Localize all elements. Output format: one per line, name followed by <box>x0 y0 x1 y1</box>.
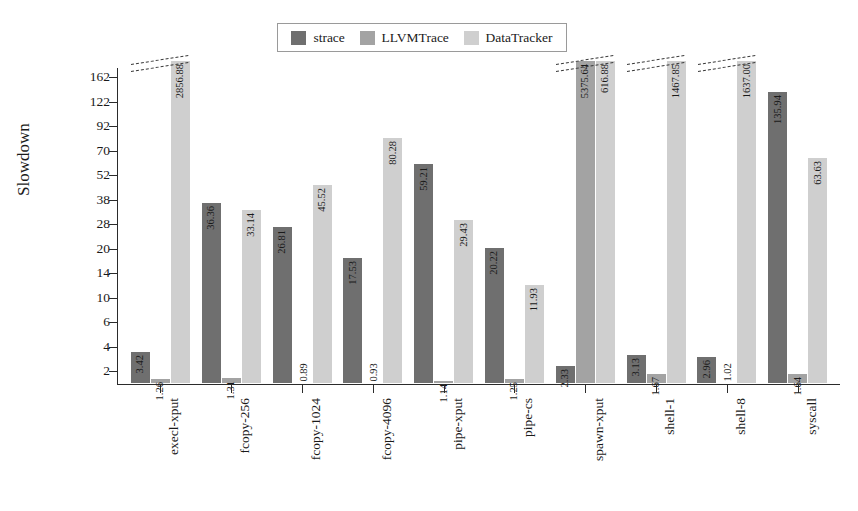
y-axis-tick <box>109 200 118 201</box>
bar-LLVMTrace-spawn-xput: 5375.64 <box>576 61 595 383</box>
bar-strace-shell-1: 3.13 <box>627 355 646 383</box>
x-axis-tick <box>656 384 657 393</box>
bar-LLVMTrace-pipe-xput: 1.14 <box>434 381 453 383</box>
bar-strace-syscall: 135.94 <box>768 92 787 383</box>
bar-value-label: 26.81 <box>277 230 288 254</box>
bar-DataTracker-execl-xput: 2856.88 <box>171 61 190 383</box>
bar-value-label: 29.43 <box>458 223 469 247</box>
bar-value-label-LLVMTrace-shell-8: 1.02 <box>723 363 734 381</box>
bar-DataTracker-fcopy-256: 33.14 <box>242 210 261 383</box>
bar-value-label: 17.53 <box>348 261 359 285</box>
bar-value-label: 20.22 <box>489 251 500 275</box>
x-axis-label-shell-1: shell-1 <box>662 398 678 435</box>
legend-swatch-llvmtrace <box>360 31 375 45</box>
legend-item-strace: strace <box>291 31 344 45</box>
bar-DataTracker-pipe-xput: 29.43 <box>454 220 473 383</box>
y-axis-tick <box>109 249 118 250</box>
y-axis-tick <box>109 77 118 78</box>
bar-value-label: 80.28 <box>388 141 399 165</box>
bar-value-label: 3.13 <box>631 358 642 376</box>
bar-strace-shell-8: 2.96 <box>697 357 716 383</box>
x-axis-tick <box>514 384 515 393</box>
y-axis-tick <box>109 102 118 103</box>
bar-value-label: 63.63 <box>812 161 823 185</box>
x-axis-tick <box>727 384 728 393</box>
x-axis-label-syscall: syscall <box>804 398 820 435</box>
y-axis-tick-label: 122 <box>90 95 110 109</box>
legend-swatch-strace <box>291 31 306 45</box>
y-axis-tick-label: 14 <box>97 266 111 280</box>
x-axis-tick <box>798 384 799 393</box>
y-axis-tick-label: 92 <box>97 119 111 133</box>
bar-value-label: 3.42 <box>135 355 146 373</box>
y-axis-tick-label: 162 <box>90 70 110 84</box>
bar-LLVMTrace-syscall: 1.64 <box>788 374 807 383</box>
x-axis-label-pipe-cs: pipe-cs <box>520 398 536 437</box>
bar-DataTracker-syscall: 63.63 <box>808 158 827 383</box>
x-axis-tick <box>373 384 374 393</box>
y-axis-tick <box>109 175 118 176</box>
y-axis-tick <box>109 224 118 225</box>
bar-value-label-LLVMTrace-fcopy-1024: 0.89 <box>298 363 309 381</box>
bar-LLVMTrace-pipe-cs: 1.25 <box>505 379 524 383</box>
bar-value-label: 2.96 <box>702 360 713 378</box>
y-axis-tick <box>109 126 118 127</box>
y-axis-tick-label: 38 <box>97 193 111 207</box>
bar-value-label: 2.33 <box>560 369 571 387</box>
x-axis-label-shell-8: shell-8 <box>733 398 749 435</box>
x-axis-label-fcopy-256: fcopy-256 <box>237 398 253 453</box>
y-axis-title: Slowdown <box>14 123 34 196</box>
axis-break-mark-shell-1 <box>627 64 685 76</box>
bar-value-label-LLVMTrace-fcopy-4096: 0.93 <box>369 363 380 381</box>
bar-DataTracker-spawn-xput: 616.88 <box>596 61 615 383</box>
x-axis-label-fcopy-1024: fcopy-1024 <box>308 398 324 460</box>
y-axis-tick-label: 10 <box>97 291 111 305</box>
legend-item-datatracker: DataTracker <box>464 31 553 45</box>
bar-DataTracker-shell-1: 1467.85 <box>667 61 686 383</box>
y-axis-tick <box>109 151 118 152</box>
x-axis-tick <box>444 384 445 393</box>
y-axis-tick-label: 28 <box>97 217 111 231</box>
axis-break-mark-spawn-xput <box>556 64 614 76</box>
x-axis-label-fcopy-4096: fcopy-4096 <box>379 398 395 460</box>
x-axis-label-execl-xput: execl-xput <box>166 398 182 455</box>
y-axis-tick <box>109 371 118 372</box>
legend-item-llvmtrace: LLVMTrace <box>360 31 449 45</box>
y-axis-tick-label: 20 <box>97 242 111 256</box>
bar-DataTracker-pipe-cs: 11.93 <box>525 285 544 383</box>
plot-area: 3.421.262856.8836.361.3133.1426.810.8945… <box>118 72 840 383</box>
bar-strace-pipe-cs: 20.22 <box>485 248 504 383</box>
x-axis-tick <box>231 384 232 393</box>
bar-strace-pipe-xput: 59.21 <box>414 164 433 383</box>
legend-swatch-datatracker <box>464 31 479 45</box>
y-axis-tick-label: 52 <box>97 168 111 182</box>
bar-DataTracker-fcopy-4096: 80.28 <box>383 138 402 383</box>
x-axis-label-pipe-xput: pipe-xput <box>450 398 466 450</box>
bar-strace-fcopy-4096: 17.53 <box>343 258 362 383</box>
bar-LLVMTrace-shell-1: 1.67 <box>647 374 666 383</box>
bar-value-label: 45.52 <box>317 188 328 212</box>
x-axis-tick <box>302 384 303 393</box>
bar-LLVMTrace-fcopy-256: 1.31 <box>222 378 241 383</box>
bar-value-label: 11.93 <box>529 288 540 311</box>
y-axis-tick <box>109 298 118 299</box>
bar-value-label: 36.36 <box>206 206 217 230</box>
bar-chart: strace LLVMTrace DataTracker Slowdown 24… <box>0 0 858 511</box>
x-axis-tick <box>585 384 586 393</box>
y-axis-tick <box>109 322 118 323</box>
axis-break-mark-shell-8 <box>698 64 756 76</box>
bar-LLVMTrace-execl-xput: 1.26 <box>151 379 170 383</box>
y-axis-tick-labels: 2461014202838527092122162 <box>60 72 110 383</box>
chart-legend: strace LLVMTrace DataTracker <box>277 23 567 52</box>
bar-DataTracker-shell-8: 1637.00 <box>737 61 756 383</box>
bar-value-label: 135.94 <box>772 95 783 124</box>
x-axis-tick <box>160 384 161 393</box>
bar-strace-spawn-xput: 2.33 <box>556 366 575 383</box>
bar-strace-fcopy-1024: 26.81 <box>273 227 292 383</box>
legend-label-datatracker: DataTracker <box>486 31 553 45</box>
y-axis-tick <box>109 347 118 348</box>
y-axis-tick <box>109 273 118 274</box>
x-axis-label-spawn-xput: spawn-xput <box>591 398 607 461</box>
legend-label-strace: strace <box>313 31 344 45</box>
bar-strace-fcopy-256: 36.36 <box>202 203 221 383</box>
